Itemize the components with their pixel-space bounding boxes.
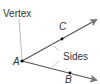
sides-leader-lower [52, 61, 59, 67]
angle-diagram: Vertex A C B Sides [0, 0, 100, 84]
point-a-dot [20, 59, 23, 62]
point-a-label: A [12, 56, 20, 67]
vertex-leader-line [19, 19, 22, 59]
sides-label: Sides [63, 51, 88, 62]
vertex-label: Vertex [3, 8, 31, 19]
ray-ab [22, 61, 96, 80]
point-b-label: B [65, 74, 72, 84]
point-c-dot [61, 38, 64, 41]
sides-leader-upper [52, 44, 59, 51]
angle-svg: Vertex A C B Sides [0, 0, 100, 84]
point-c-label: C [59, 21, 67, 32]
